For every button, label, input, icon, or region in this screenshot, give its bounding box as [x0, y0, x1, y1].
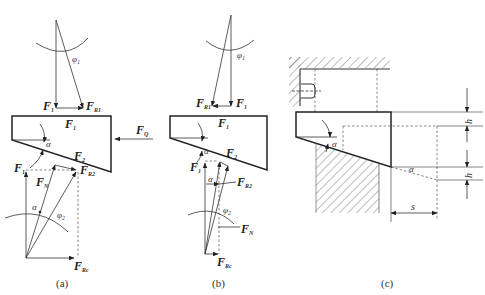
svg-text:F2: F2 [225, 146, 237, 160]
wedge-block-a [12, 116, 111, 172]
svg-text:α: α [409, 164, 414, 174]
svg-text:φ1: φ1 [237, 50, 245, 61]
svg-text:FRc: FRc [73, 259, 89, 273]
svg-text:FR1: FR1 [195, 96, 211, 110]
svg-text:F1: F1 [189, 160, 201, 174]
top-frame-hatch [289, 57, 390, 68]
svg-text:α: α [204, 146, 209, 156]
friction-vector-low-a [55, 165, 76, 170]
svg-text:F1: F1 [13, 161, 25, 175]
panel-c: α h h α s (c) [289, 57, 483, 290]
svg-text:h: h [463, 173, 474, 178]
svg-text:FR2: FR2 [79, 163, 95, 177]
caption-a: (a) [56, 277, 69, 290]
displaced-incline-dash [391, 167, 437, 180]
svg-text:s: s [411, 201, 415, 212]
alpha-arc-lower-a [30, 150, 43, 168]
friction-vector-low-b [220, 162, 228, 166]
caption-b: (b) [212, 277, 225, 290]
alpha-arc-a [40, 124, 45, 142]
svg-text:φ2: φ2 [223, 205, 231, 216]
svg-text:α: α [32, 202, 37, 212]
svg-text:FR1: FR1 [85, 99, 101, 113]
svg-text:F1: F1 [64, 117, 76, 131]
svg-text:α: α [208, 174, 213, 184]
fr1-vector-b [212, 15, 231, 106]
svg-text:FN: FN [240, 222, 254, 236]
svg-text:α: α [332, 139, 337, 149]
fr2-leader-b [219, 182, 236, 184]
panel-a: φ1 F1 FR1 F1 FQ α F2 α φ2 F1 FN FR2 FRc … [5, 20, 153, 290]
svg-text:F1: F1 [217, 116, 229, 130]
svg-text:φ1: φ1 [72, 54, 80, 65]
panel-b: φ1 FR1 F1 F1 α F2 F1 α FR2 φ2 FN FRc (b) [170, 15, 267, 290]
svg-text:FRc: FRc [216, 255, 232, 269]
left-frame-hatch [289, 57, 301, 107]
alpha-arc-c [322, 120, 330, 137]
svg-text:FQ: FQ [135, 123, 149, 137]
svg-text:α: α [46, 139, 51, 149]
fr2-vector [26, 172, 76, 258]
svg-text:φ2: φ2 [57, 210, 65, 221]
svg-text:FN: FN [35, 175, 49, 189]
wedge-force-diagram: φ1 F1 FR1 F1 FQ α F2 α φ2 F1 FN FR2 FRc … [0, 0, 485, 295]
caption-c: (c) [381, 277, 394, 290]
svg-text:F1: F1 [42, 99, 54, 113]
phi1-arc-b [206, 40, 254, 50]
svg-text:h: h [463, 119, 474, 124]
svg-text:F1: F1 [235, 96, 247, 110]
svg-text:F2: F2 [73, 149, 85, 163]
slider-hatch [316, 143, 379, 213]
svg-text:FR2: FR2 [236, 175, 252, 189]
